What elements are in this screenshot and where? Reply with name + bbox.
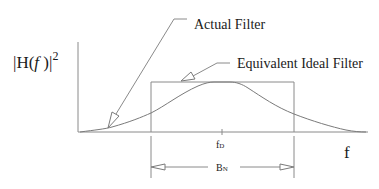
filter-bandwidth-diagram: |H(f )|2 Actual Filter Equivalent Ideal …: [0, 0, 379, 189]
ideal-filter-leader-line: [193, 63, 230, 76]
y-axis-label: |H(f )|2: [13, 49, 58, 72]
x-axis-label: f: [344, 143, 350, 162]
bandwidth-label: BN: [216, 162, 228, 173]
center-frequency-label: fD: [216, 139, 224, 150]
ideal-filter-arrow-icon: [181, 72, 195, 81]
actual-filter-label: Actual Filter: [194, 17, 265, 32]
equivalent-ideal-filter-label: Equivalent Ideal Filter: [237, 56, 363, 71]
actual-filter-curve: [80, 82, 366, 132]
bandwidth-left-arrow-icon: [151, 164, 165, 170]
bandwidth-right-arrow-icon: [280, 164, 294, 170]
equivalent-ideal-filter-rect: [151, 82, 294, 132]
